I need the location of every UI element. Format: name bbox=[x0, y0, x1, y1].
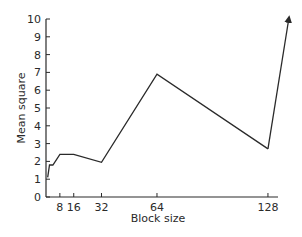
line-chart: 012345678910 8163264128 Block size Mean … bbox=[0, 0, 302, 237]
y-axis-label: Mean square bbox=[15, 72, 28, 143]
y-tick-label: 2 bbox=[34, 155, 41, 168]
x-tick-label: 16 bbox=[67, 201, 81, 214]
y-tick-label: 5 bbox=[34, 102, 41, 115]
y-tick-label: 4 bbox=[34, 120, 41, 133]
y-tick-label: 0 bbox=[34, 191, 41, 204]
x-tick-label: 128 bbox=[257, 201, 278, 214]
y-tick-label: 7 bbox=[34, 66, 41, 79]
x-axis: 8163264128 bbox=[46, 193, 278, 214]
y-tick-label: 6 bbox=[34, 84, 41, 97]
y-tick-label: 10 bbox=[27, 13, 41, 26]
y-axis: 012345678910 bbox=[27, 13, 50, 204]
off-scale-arrow-icon bbox=[268, 19, 289, 149]
y-tick-label: 8 bbox=[34, 49, 41, 62]
x-tick-label: 8 bbox=[56, 201, 63, 214]
series-layer bbox=[48, 19, 289, 177]
y-tick-label: 9 bbox=[34, 31, 41, 44]
x-axis-label: Block size bbox=[131, 212, 186, 225]
series-line bbox=[48, 74, 268, 177]
y-tick-label: 3 bbox=[34, 138, 41, 151]
x-tick-label: 32 bbox=[94, 201, 108, 214]
y-tick-label: 1 bbox=[34, 173, 41, 186]
